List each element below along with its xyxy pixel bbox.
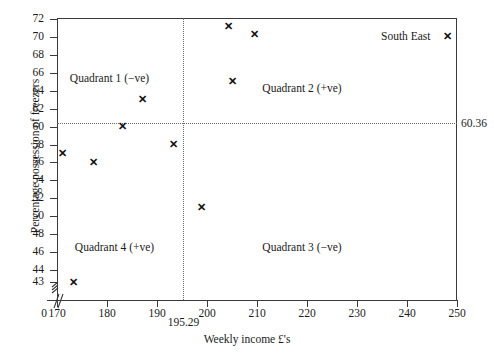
quadrant-label-1: Quadrant 1 (−ve) bbox=[70, 72, 149, 84]
data-point-marker bbox=[224, 22, 233, 31]
x-axis-tick-label: 180 bbox=[87, 307, 127, 319]
data-point-label-south-east: South East bbox=[381, 30, 431, 42]
data-point-marker bbox=[250, 30, 259, 39]
vertical-reference-line bbox=[183, 18, 184, 300]
y-axis-tick bbox=[50, 234, 57, 235]
x-axis-tick bbox=[357, 300, 358, 307]
y-axis-tick bbox=[50, 55, 57, 56]
y-axis-tick-label: 66 bbox=[18, 67, 44, 79]
y-axis-tick bbox=[50, 145, 57, 146]
data-point-marker bbox=[443, 32, 452, 41]
y-axis-tick-label: 50 bbox=[18, 210, 44, 222]
y-axis-tick-label: 72 bbox=[18, 13, 44, 25]
x-axis-tick bbox=[157, 300, 158, 307]
y-axis-tick bbox=[50, 180, 57, 181]
scatter-plot-figure: Percentage possession of freezers Weekly… bbox=[0, 0, 494, 362]
y-axis-tick-label: 46 bbox=[18, 246, 44, 258]
quadrant-label-4: Quadrant 4 (+ve) bbox=[75, 241, 154, 253]
x-axis-tick-label: 220 bbox=[287, 307, 327, 319]
quadrant-label-3: Quadrant 3 (−ve) bbox=[262, 241, 341, 253]
axis-origin-label: 0 bbox=[24, 307, 64, 319]
y-axis-tick bbox=[50, 270, 57, 271]
x-axis-tick bbox=[307, 300, 308, 307]
y-axis-tick bbox=[50, 198, 57, 199]
data-point-marker bbox=[89, 158, 98, 167]
x-axis-tick-label: 250 bbox=[437, 307, 477, 319]
x-axis-tick bbox=[257, 300, 258, 307]
y-axis-tick-label: 62 bbox=[18, 103, 44, 115]
y-axis-tick-label: 43 bbox=[18, 276, 44, 288]
y-axis-tick-label: 48 bbox=[18, 228, 44, 240]
y-axis-tick bbox=[50, 19, 57, 20]
plot-frame bbox=[57, 18, 457, 300]
data-point-marker bbox=[169, 140, 178, 149]
y-axis-tick bbox=[50, 109, 57, 110]
x-axis-tick bbox=[207, 300, 208, 307]
x-axis-tick bbox=[57, 300, 58, 307]
quadrant-label-2: Quadrant 2 (+ve) bbox=[262, 82, 341, 94]
y-axis-tick-label: 54 bbox=[18, 174, 44, 186]
y-axis-tick-label: 60 bbox=[18, 121, 44, 133]
y-axis-tick-label: 58 bbox=[18, 139, 44, 151]
y-axis-tick-label: 52 bbox=[18, 192, 44, 204]
x-axis-title: Weekly income £'s bbox=[0, 333, 494, 345]
y-axis-tick bbox=[50, 162, 57, 163]
data-point-marker bbox=[69, 278, 78, 287]
data-point-marker bbox=[197, 203, 206, 212]
y-axis-tick-label: 64 bbox=[18, 85, 44, 97]
y-axis-tick bbox=[50, 282, 57, 283]
data-point-marker bbox=[118, 122, 127, 131]
vertical-reference-line-label: 195.29 bbox=[148, 316, 218, 328]
x-axis-tick-label: 210 bbox=[237, 307, 277, 319]
horizontal-reference-line-label: 60.36 bbox=[461, 117, 487, 129]
data-point-marker bbox=[58, 149, 67, 158]
y-axis-tick bbox=[50, 37, 57, 38]
y-axis-tick-label: 70 bbox=[18, 31, 44, 43]
y-axis-tick bbox=[50, 73, 57, 74]
y-axis-tick bbox=[50, 127, 57, 128]
x-axis-tick bbox=[457, 300, 458, 307]
x-axis-tick-label: 240 bbox=[387, 307, 427, 319]
y-axis-tick bbox=[50, 91, 57, 92]
y-axis-tick-label: 56 bbox=[18, 156, 44, 168]
y-axis-tick-label: 44 bbox=[18, 264, 44, 276]
x-axis-tick-label: 230 bbox=[337, 307, 377, 319]
y-axis-tick-label: 68 bbox=[18, 49, 44, 61]
data-point-marker bbox=[228, 77, 237, 86]
data-point-marker bbox=[138, 95, 147, 104]
x-axis-tick bbox=[107, 300, 108, 307]
y-axis-tick bbox=[50, 252, 57, 253]
y-axis-tick bbox=[50, 216, 57, 217]
x-axis-tick bbox=[407, 300, 408, 307]
